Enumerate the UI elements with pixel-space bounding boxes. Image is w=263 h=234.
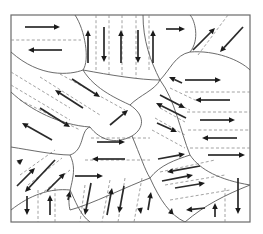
domain-diagram xyxy=(0,0,263,234)
diagram-frame xyxy=(11,15,250,222)
